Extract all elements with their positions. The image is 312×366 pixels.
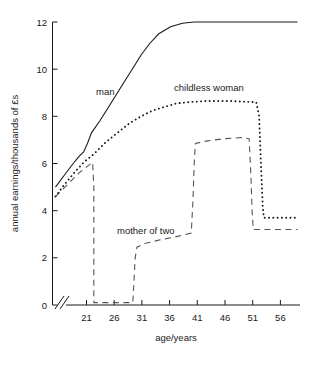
annotation-childless-woman: childless woman	[174, 82, 244, 93]
y-tick-label-6: 6	[42, 158, 47, 169]
x-tick-label-56: 56	[275, 312, 286, 323]
y-tick-label-2: 2	[42, 252, 47, 263]
x-tick-label-26: 26	[109, 312, 120, 323]
y-tick-label-0: 0	[42, 300, 47, 311]
earnings-chart-figure: 12 10 8 6 4 2 0 annual earnings/thousand…	[0, 0, 312, 366]
annotation-man: man	[96, 86, 114, 97]
x-tick-label-41: 41	[192, 312, 203, 323]
x-axis-title: age/years	[155, 332, 197, 343]
x-tick-label-51: 51	[247, 312, 258, 323]
x-tick-label-36: 36	[164, 312, 175, 323]
x-tick-label-31: 31	[137, 312, 148, 323]
annotation-mother-of-two: mother of two	[117, 225, 175, 236]
x-axis: 21 26 31 36 41 46 51 56 age/years	[55, 296, 300, 343]
y-axis-ticks	[53, 22, 58, 305]
y-tick-label-4: 4	[42, 205, 47, 216]
series-annotations: man childless woman mother of two	[96, 82, 244, 236]
y-axis-title: annual earnings/thousands of £s	[9, 95, 20, 233]
y-tick-label-12: 12	[36, 17, 47, 28]
y-axis: 12 10 8 6 4 2 0 annual earnings/thousand…	[9, 17, 58, 311]
x-axis-break-icon	[55, 296, 69, 309]
series-childless-woman	[55, 101, 297, 218]
y-tick-label-8: 8	[42, 111, 47, 122]
x-tick-label-46: 46	[220, 312, 231, 323]
x-tick-labels: 21 26 31 36 41 46 51 56	[81, 312, 285, 323]
chart-canvas: 12 10 8 6 4 2 0 annual earnings/thousand…	[0, 0, 312, 366]
series-group	[55, 22, 297, 303]
x-tick-label-21: 21	[81, 312, 92, 323]
y-tick-labels: 12 10 8 6 4 2 0	[36, 17, 47, 311]
y-tick-label-10: 10	[36, 64, 47, 75]
